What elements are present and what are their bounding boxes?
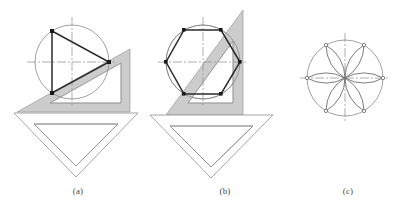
technical-drawing-canvas xyxy=(0,0,394,215)
panel-a-caption: (a) xyxy=(58,186,98,196)
panel-b-vertex-marker xyxy=(182,28,186,32)
panel-a-vertex-marker xyxy=(50,91,54,95)
panel-b-vertex-marker xyxy=(219,92,223,96)
division-marker xyxy=(305,76,308,79)
panel-b-vertex-marker xyxy=(238,60,242,64)
panel-c-caption: (c) xyxy=(328,186,368,196)
panel-b-vertex-marker xyxy=(182,92,186,96)
division-marker xyxy=(381,76,384,79)
panel-a-vertex-marker xyxy=(107,60,111,64)
panel-b-vertex-marker xyxy=(164,60,168,64)
panel-b-vertex-marker xyxy=(219,28,223,32)
division-marker xyxy=(324,109,327,112)
panel-a-vertex-marker xyxy=(50,29,54,33)
panel-b-caption: (b) xyxy=(205,186,245,196)
division-marker xyxy=(362,43,365,46)
division-marker xyxy=(362,109,365,112)
division-marker xyxy=(324,43,327,46)
figure-root: (a) (b) (c) xyxy=(0,0,394,215)
